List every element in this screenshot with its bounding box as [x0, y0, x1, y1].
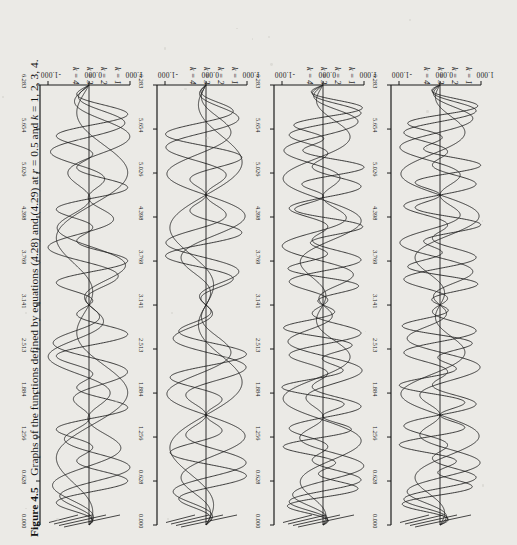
scan-speck	[206, 137, 209, 140]
legend-leader-line	[59, 515, 106, 526]
x-tick-label: 1.256	[21, 426, 28, 440]
figure-plate: 0.0000.6281.2561.8842.5133.1413.7694.398…	[0, 0, 517, 545]
x-tick-label: 1.256	[138, 426, 145, 440]
caption-body: Graphs of the functions defined by equat…	[28, 174, 40, 476]
x-tick-label: 1.256	[372, 426, 379, 440]
x-tick-label: 0.000	[372, 514, 379, 528]
scan-speck	[225, 356, 228, 359]
x-tick-label: 3.141	[138, 294, 145, 308]
legend-entry-k-2: k = 2	[216, 67, 225, 84]
legend-entry-k-4: k = 4	[422, 67, 431, 84]
scan-speck	[426, 110, 429, 113]
scan-speck	[253, 162, 254, 163]
x-tick-label: 5.654	[255, 118, 262, 132]
x-tick-label: 5.654	[372, 118, 379, 132]
x-tick-label: 5.026	[372, 162, 379, 176]
legend-entry-k-2: k = 2	[450, 67, 459, 84]
legend-entry-k-1: k = 1	[347, 67, 356, 84]
scan-speck	[2, 96, 4, 98]
scan-speck	[31, 201, 33, 203]
legend-entry-k-2: k = 2	[99, 67, 108, 84]
panel-1: 0.0000.6281.2561.8842.5133.1413.7694.398…	[374, 79, 487, 531]
panel-2: 0.0000.6281.2561.8842.5133.1413.7694.398…	[257, 79, 370, 531]
y-tick-label: 1.000	[125, 70, 143, 79]
x-tick-label: 0.628	[21, 470, 28, 484]
legend-entry-k-3: k = 3	[85, 67, 94, 84]
panel-2-plot-area	[257, 79, 370, 531]
x-tick-label: 1.884	[372, 382, 379, 396]
legend-entry-k-4: k = 4	[305, 67, 314, 84]
legend-entry-k-3: k = 3	[202, 67, 211, 84]
legend-entry-k-1: k = 1	[230, 67, 239, 84]
scan-speck	[426, 147, 428, 149]
x-tick-label: 3.769	[255, 250, 262, 264]
x-tick-label: 3.769	[372, 250, 379, 264]
legend-leader-line	[293, 515, 340, 526]
caption-var-r: r	[28, 169, 40, 173]
x-tick-label: 5.026	[255, 162, 262, 176]
scan-speck	[268, 36, 270, 38]
x-tick-label: 5.026	[21, 162, 28, 176]
x-tick-label: 5.654	[138, 118, 145, 132]
x-tick-label: 3.769	[138, 250, 145, 264]
x-tick-label: 3.141	[372, 294, 379, 308]
caption-gap	[28, 476, 40, 485]
x-tick-label: 4.398	[21, 206, 28, 220]
legend-entry-k-4: k = 4	[71, 67, 80, 84]
x-tick-label: 4.398	[372, 206, 379, 220]
x-tick-label: 2.513	[138, 338, 145, 352]
x-tick-label: 0.000	[255, 514, 262, 528]
scan-speck	[115, 400, 117, 402]
scanned-page: 0.0000.6281.2561.8842.5133.1413.7694.398…	[0, 0, 517, 545]
x-tick-label: 1.884	[255, 382, 262, 396]
caption-tail: = 1, 2, 3, 4.	[28, 59, 40, 115]
legend-entry-k-1: k = 1	[464, 67, 473, 84]
x-tick-label: 3.141	[255, 294, 262, 308]
figure-number: Figure 4.5	[28, 487, 40, 537]
panel-3: 0.0000.6281.2561.8842.5133.1413.7694.398…	[140, 79, 253, 531]
panel-3-plot-area	[140, 79, 253, 531]
caption-var-k: k	[28, 115, 40, 120]
x-tick-label: 3.141	[21, 294, 28, 308]
x-tick-label: 0.000	[21, 514, 28, 528]
y-tick-label: -1.000	[275, 70, 295, 79]
x-tick-label: 5.026	[138, 162, 145, 176]
y-tick-label: 1.000	[476, 70, 494, 79]
legend-leader-line	[410, 515, 457, 526]
x-tick-label: 1.884	[138, 382, 145, 396]
curve-k-3	[289, 85, 361, 525]
scan-speck	[270, 63, 273, 66]
panel-1-plot-area	[374, 79, 487, 531]
x-tick-label: 1.256	[255, 426, 262, 440]
x-tick-label: 3.769	[21, 250, 28, 264]
legend-entry-k-4: k = 4	[188, 67, 197, 84]
caption-mid: = 0.5 and	[28, 120, 40, 169]
x-tick-label: 2.513	[21, 338, 28, 352]
legend-entry-k-1: k = 1	[113, 67, 122, 84]
legend-entry-k-3: k = 3	[436, 67, 445, 84]
x-tick-label: 2.513	[372, 338, 379, 352]
y-tick-label: -1.000	[158, 70, 178, 79]
scan-speck	[294, 385, 296, 387]
y-tick-label: -1.000	[392, 70, 412, 79]
y-tick-label: 1.000	[359, 70, 377, 79]
figure-caption: Figure 4.5 Graphs of the functions defin…	[28, 21, 54, 537]
y-tick-label: 1.000	[242, 70, 260, 79]
legend-entry-k-2: k = 2	[333, 67, 342, 84]
x-tick-label: 6.283	[21, 74, 28, 88]
x-tick-label: 4.398	[255, 206, 262, 220]
x-tick-label: 1.884	[21, 382, 28, 396]
x-tick-label: 0.000	[138, 514, 145, 528]
x-tick-label: 0.628	[255, 470, 262, 484]
x-tick-label: 5.654	[21, 118, 28, 132]
x-tick-label: 0.628	[372, 470, 379, 484]
x-tick-label: 0.628	[138, 470, 145, 484]
legend-leader-line	[176, 515, 223, 526]
x-tick-label: 4.398	[138, 206, 145, 220]
legend-entry-k-3: k = 3	[319, 67, 328, 84]
x-tick-label: 2.513	[255, 338, 262, 352]
